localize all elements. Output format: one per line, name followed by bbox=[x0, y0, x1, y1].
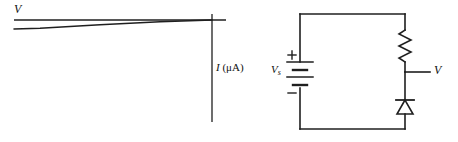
current-units: (μA) bbox=[222, 61, 243, 73]
circuit-group bbox=[287, 14, 430, 129]
iv-graph-group bbox=[14, 14, 226, 122]
output-voltage-label: V bbox=[434, 64, 441, 76]
source-voltage-label: Vs bbox=[271, 64, 281, 77]
iv-curve bbox=[14, 20, 212, 29]
resistor-zigzag bbox=[399, 30, 411, 62]
battery-plus-icon bbox=[288, 51, 296, 59]
graph-voltage-axis-label: V bbox=[14, 3, 21, 15]
figure-root: V I (μA) Vs V bbox=[0, 0, 458, 142]
source-subscript: s bbox=[278, 68, 281, 77]
diode-triangle bbox=[397, 100, 413, 114]
source-symbol: V bbox=[271, 63, 278, 75]
graph-current-axis-label: I (μA) bbox=[216, 62, 244, 73]
